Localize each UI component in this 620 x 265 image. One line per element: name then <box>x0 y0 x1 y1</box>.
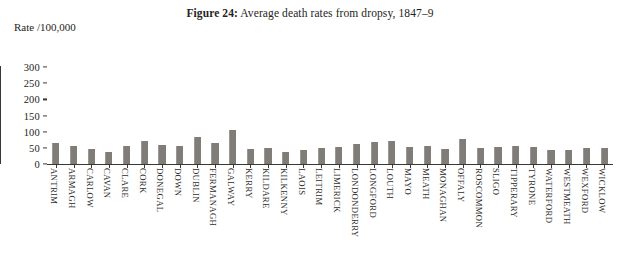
x-axis-label-galway: GALWAY <box>226 168 236 206</box>
x-axis-tick-mark <box>74 164 75 168</box>
x-axis-label-wicklow: WICKLOW <box>597 168 607 213</box>
x-axis-tick-mark <box>109 164 110 168</box>
x-axis-tick-mark <box>463 164 464 168</box>
bar-clare <box>123 146 130 164</box>
x-axis-tick-mark <box>480 164 481 168</box>
bar-donegal <box>158 145 165 164</box>
bar-roscommon <box>477 148 484 164</box>
bar-tyrone <box>530 147 537 164</box>
x-axis-label-armagh: ARMAGH <box>67 168 77 209</box>
bar-monaghan <box>441 149 448 164</box>
x-axis-label-tipperary: TIPPERARY <box>509 168 519 218</box>
y-axis-tick-mark <box>43 115 48 116</box>
x-axis-label-kerry: KERRY <box>244 168 254 199</box>
bar-limerick <box>335 147 342 164</box>
x-axis-tick-mark <box>286 164 287 168</box>
x-axis-tick-mark <box>569 164 570 168</box>
x-axis-tick-mark <box>144 164 145 168</box>
bar-londonderry <box>353 144 360 164</box>
figure-caption: Average death rates from dropsy, 1847–9 <box>240 7 433 19</box>
x-axis-tick-mark <box>339 164 340 168</box>
x-axis-tick-mark <box>233 164 234 168</box>
x-axis-category-labels: ANTRIMARMAGHCARLOWCAVANCLARECORKDONEGALD… <box>47 168 613 263</box>
y-axis-tick-mark <box>43 83 48 84</box>
y-axis-tick-mark <box>43 99 48 100</box>
x-axis-label-antrim: ANTRIM <box>49 168 59 204</box>
x-axis-label-dublin: DUBLIN <box>191 168 201 203</box>
y-axis-tick-mark <box>43 147 48 148</box>
x-axis-tick-mark <box>374 164 375 168</box>
bar-antrim <box>52 143 59 164</box>
x-axis-tick-mark <box>250 164 251 168</box>
x-axis-label-down: DOWN <box>173 168 183 196</box>
y-axis-tick-mark <box>43 66 48 67</box>
x-axis-tick-mark <box>604 164 605 168</box>
bar-longford <box>371 142 378 164</box>
y-axis-tick-mark <box>43 131 48 132</box>
x-axis-tick-mark <box>268 164 269 168</box>
x-axis-tick-mark <box>91 164 92 168</box>
x-axis-tick-mark <box>427 164 428 168</box>
x-axis-label-londonderry: LONDONDERRY <box>350 168 360 238</box>
x-axis-tick-mark <box>162 164 163 168</box>
x-axis-label-cork: CORK <box>138 168 148 194</box>
x-axis-tick-mark <box>56 164 57 168</box>
bar-fermanagh <box>211 143 218 164</box>
bar-tipperary <box>512 146 519 164</box>
bar-galway <box>229 130 236 164</box>
x-axis-label-laois: LAOIS <box>297 168 307 195</box>
bar-westmeath <box>565 150 572 164</box>
bar-sligo <box>494 147 501 164</box>
x-axis-tick-mark <box>586 164 587 168</box>
bar-kildare <box>264 148 271 164</box>
x-axis-label-roscommon: ROSCOMMON <box>474 168 484 228</box>
x-axis-label-monaghan: MONAGHAN <box>438 168 448 222</box>
bar-chart-plot-area: 050100150200250300 <box>47 67 613 164</box>
y-axis-line <box>0 66 1 164</box>
x-axis-tick-mark <box>498 164 499 168</box>
x-axis-tick-mark <box>445 164 446 168</box>
x-axis-label-sligo: SLIGO <box>491 168 501 195</box>
x-axis-label-carlow: CARLOW <box>85 168 95 208</box>
bar-cork <box>141 141 148 164</box>
x-axis-tick-mark <box>197 164 198 168</box>
bar-down <box>176 146 183 164</box>
x-axis-label-waterford: WATERFORD <box>544 168 554 223</box>
x-axis-label-clare: CLARE <box>120 168 130 198</box>
x-axis-label-offaly: OFFALY <box>456 168 466 202</box>
x-axis-tick-mark <box>180 164 181 168</box>
x-axis-label-louth: LOUTH <box>385 168 395 199</box>
x-axis-label-limerick: LIMERICK <box>332 168 342 213</box>
bar-laois <box>300 150 307 164</box>
bar-leitrim <box>318 148 325 164</box>
bar-carlow <box>88 149 95 164</box>
x-axis-label-longford: LONGFORD <box>368 168 378 218</box>
x-axis-label-fermanagh: FERMANAGH <box>208 168 218 226</box>
x-axis-label-westmeath: WESTMEATH <box>562 168 572 225</box>
x-axis-tick-mark <box>410 164 411 168</box>
y-axis-tick-mark <box>43 163 48 164</box>
bar-armagh <box>70 146 77 164</box>
x-axis-tick-mark <box>303 164 304 168</box>
x-axis-tick-mark <box>215 164 216 168</box>
x-axis-tick-mark <box>392 164 393 168</box>
figure-number: Figure 24: <box>186 7 238 19</box>
bar-kerry <box>247 149 254 164</box>
bar-wicklow <box>601 148 608 164</box>
bar-meath <box>424 146 431 164</box>
x-axis-tick-mark <box>357 164 358 168</box>
x-axis-tick-mark <box>516 164 517 168</box>
bar-louth <box>388 141 395 164</box>
x-axis-label-cavan: CAVAN <box>102 168 112 198</box>
bar-dublin <box>194 137 201 164</box>
x-axis-label-donegal: DONEGAL <box>155 168 165 212</box>
x-axis-tick-mark <box>551 164 552 168</box>
bar-mayo <box>406 147 413 164</box>
x-axis-label-leitrim: LEITRIM <box>314 168 324 206</box>
bar-waterford <box>547 150 554 164</box>
x-axis-label-wexford: WEXFORD <box>580 168 590 213</box>
x-axis-label-meath: MEATH <box>421 168 431 200</box>
x-axis-label-tyrone: TYRONE <box>527 168 537 205</box>
x-axis-label-mayo: MAYO <box>403 168 413 195</box>
bar-offaly <box>459 139 466 164</box>
